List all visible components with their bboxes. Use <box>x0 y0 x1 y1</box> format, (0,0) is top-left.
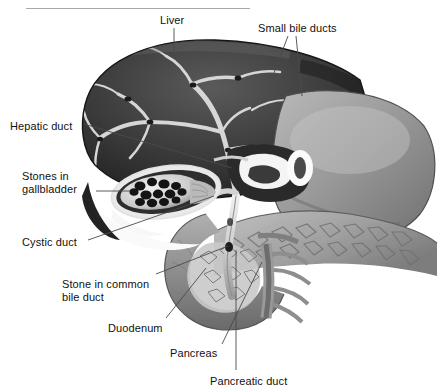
label-stones-in-gallbladder-line1: Stones in <box>22 170 69 183</box>
label-stone-in-common-bile-duct-line1: Stone in common <box>62 278 149 291</box>
label-stone-in-common-bile-duct-line2: bile duct <box>62 291 104 304</box>
label-liver: Liver <box>160 14 184 27</box>
label-pancreas: Pancreas <box>170 347 217 360</box>
label-small-bile-ducts: Small bile ducts <box>258 22 337 35</box>
label-duodenum: Duodenum <box>108 322 163 335</box>
label-hepatic-duct: Hepatic duct <box>10 120 72 133</box>
label-cystic-duct: Cystic duct <box>22 236 77 249</box>
figure-canvas: Liver Small bile ducts Hepatic duct Ston… <box>0 0 437 387</box>
label-pancreatic-duct: Pancreatic duct <box>210 375 287 387</box>
label-stones-in-gallbladder-line2: gallbladder <box>22 183 77 196</box>
